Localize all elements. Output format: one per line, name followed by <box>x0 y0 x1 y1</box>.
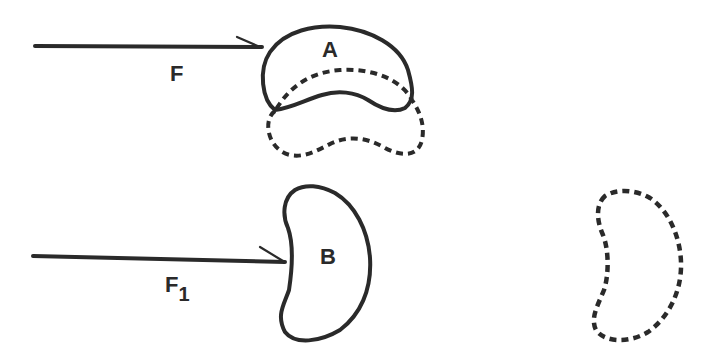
force-label-f: F <box>170 61 183 86</box>
force-arrow-f <box>35 37 262 47</box>
diagram-canvas: F A F1 B <box>0 0 722 362</box>
force-label-f1: F1 <box>165 272 190 305</box>
force-diagram: F A F1 B <box>0 0 722 362</box>
body-a-displaced-outline <box>268 70 423 156</box>
body-label-b: B <box>320 244 336 269</box>
body-label-a: A <box>322 37 338 62</box>
body-b-displaced-outline <box>594 191 681 340</box>
force-arrow-f1 <box>33 247 285 262</box>
